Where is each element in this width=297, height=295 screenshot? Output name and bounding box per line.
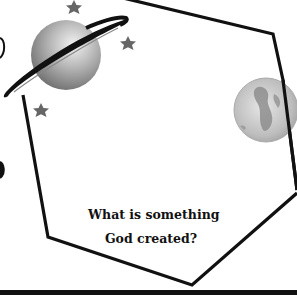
- planet-saturn-icon: [4, 18, 128, 98]
- question-line-1: What is something: [88, 203, 214, 227]
- bottom-border: [0, 290, 297, 295]
- question-prompt: What is something God created?: [88, 203, 214, 251]
- globe-earth-icon: [234, 78, 297, 190]
- partial-decoration-icon: [0, 38, 4, 178]
- question-line-2: God created?: [88, 227, 214, 251]
